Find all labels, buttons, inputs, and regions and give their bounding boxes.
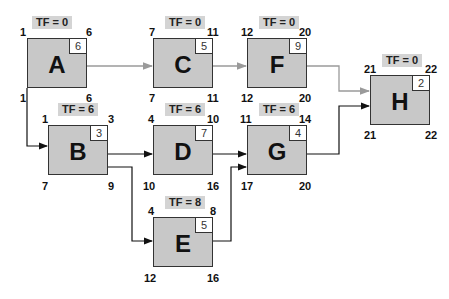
activity-node-a[interactable]: A 6 [27,38,87,88]
arrow-f-h [307,66,369,91]
total-float-label-g: TF = 6 [259,103,299,116]
activity-node-e[interactable]: E 5 [153,217,213,267]
activity-node-h[interactable]: H 2 [370,75,430,125]
total-float-label-b: TF = 6 [58,103,98,116]
total-float-label-h: TF = 0 [382,54,422,67]
activity-label-a: A [28,51,86,79]
early-start-h: 21 [364,63,376,75]
early-finish-a: 6 [86,26,92,38]
late-start-a: 1 [20,92,26,104]
duration-b: 3 [90,125,108,141]
late-start-g: 17 [241,180,253,192]
activity-label-c: C [154,51,212,79]
early-start-c: 7 [149,26,155,38]
early-start-a: 1 [20,26,26,38]
late-start-e: 12 [144,272,156,284]
late-start-f: 12 [241,92,253,104]
late-finish-d: 16 [207,180,219,192]
total-float-label-a: TF = 0 [32,16,72,29]
early-start-f: 12 [241,26,253,38]
early-finish-f: 20 [299,26,311,38]
activity-label-b: B [49,138,107,166]
network-diagram: TF = 0 1 6 A 6 1 6 TF = 0 7 11 C 5 7 11 … [0,0,449,299]
activity-label-h: H [371,88,429,116]
early-finish-b: 3 [108,113,114,125]
early-finish-d: 10 [207,113,219,125]
activity-label-g: G [248,138,306,166]
activity-label-f: F [248,51,306,79]
late-start-b: 7 [42,180,48,192]
total-float-label-d: TF = 6 [165,103,205,116]
early-finish-e: 8 [210,205,216,217]
duration-e: 5 [195,217,213,233]
early-finish-g: 14 [299,113,311,125]
arrow-b-e [108,167,152,241]
late-finish-h: 22 [425,129,437,141]
early-start-b: 1 [42,113,48,125]
duration-d: 7 [195,125,213,141]
activity-label-d: D [154,138,212,166]
early-finish-h: 22 [425,63,437,75]
total-float-label-e: TF = 8 [165,196,205,209]
duration-a: 6 [69,38,87,54]
duration-h: 2 [412,75,430,91]
duration-c: 5 [195,38,213,54]
activity-node-d[interactable]: D 7 [153,125,213,175]
late-finish-f: 20 [299,92,311,104]
late-start-d: 10 [143,180,155,192]
arrow-e-g [213,167,246,241]
late-finish-b: 9 [108,180,114,192]
duration-g: 4 [289,125,307,141]
activity-node-g[interactable]: G 4 [247,125,307,175]
total-float-label-c: TF = 0 [165,16,205,29]
early-finish-c: 11 [207,26,219,38]
early-start-e: 4 [148,205,154,217]
arrow-g-h [307,106,369,154]
activity-node-c[interactable]: C 5 [153,38,213,88]
duration-f: 9 [289,38,307,54]
early-start-d: 4 [148,113,154,125]
activity-node-b[interactable]: B 3 [48,125,108,175]
late-finish-g: 20 [299,180,311,192]
total-float-label-f: TF = 0 [259,16,299,29]
late-start-c: 7 [149,92,155,104]
activity-label-e: E [154,230,212,258]
activity-node-f[interactable]: F 9 [247,38,307,88]
late-finish-e: 16 [207,272,219,284]
late-start-h: 21 [364,129,376,141]
early-start-g: 11 [240,113,252,125]
late-finish-c: 11 [207,92,219,104]
